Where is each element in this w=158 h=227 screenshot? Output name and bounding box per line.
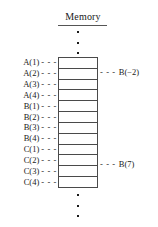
leader-dashes: - - - [41, 69, 58, 78]
memory-label-row: A(4) - - - [0, 90, 58, 101]
diagram-title-underline [58, 25, 107, 26]
memory-label-text: B(2) [24, 113, 42, 122]
memory-cell [59, 112, 97, 123]
memory-label-text: B(1) [24, 102, 42, 111]
leader-dashes: - - - [41, 134, 58, 143]
leader-dashes: - - - [41, 58, 58, 67]
memory-label-row: C(1) - - - [0, 144, 58, 155]
leader-dashes: - - - [100, 160, 116, 169]
memory-label-row: C(2) - - - [0, 155, 58, 166]
leader-dashes: - - - [41, 91, 58, 100]
leader-dashes: - - - [41, 113, 58, 122]
leader-dashes: - - - [41, 145, 58, 154]
memory-label-text: A(3) [23, 80, 41, 89]
memory-cell [59, 123, 97, 134]
leader-dashes: - - - [41, 156, 58, 165]
memory-cell [59, 155, 97, 166]
diagram-title: Memory [54, 11, 112, 23]
memory-cell [59, 69, 97, 80]
right-callout-text: B(7) [116, 160, 135, 169]
memory-cell [59, 145, 97, 156]
memory-label-row: B(2) - - - [0, 112, 58, 123]
memory-label-row: A(3) - - - [0, 79, 58, 90]
memory-label-text: C(3) [24, 167, 42, 176]
memory-label-row: C(4) - - - [0, 177, 58, 188]
memory-label-row: B(1) - - - [0, 101, 58, 112]
ellipsis-dot [77, 205, 79, 207]
memory-label-text: C(2) [24, 156, 42, 165]
memory-label-row: A(2) - - - [0, 68, 58, 79]
leader-dashes: - - - [41, 80, 58, 89]
ellipsis-dot [77, 215, 79, 217]
memory-label-row: B(4) - - - [0, 133, 58, 144]
leader-dashes: - - - [41, 167, 58, 176]
memory-label-text: A(2) [23, 69, 41, 78]
right-callout: - - - B(7) [100, 160, 134, 169]
memory-cell [59, 177, 97, 187]
memory-cell [59, 134, 97, 145]
memory-cell-stack [58, 57, 98, 188]
memory-cell [59, 101, 97, 112]
memory-cell [59, 166, 97, 177]
ellipsis-dot [77, 52, 79, 54]
memory-cell [59, 80, 97, 91]
ellipsis-dot [77, 31, 79, 33]
ellipsis-dot [77, 42, 79, 44]
memory-cell [59, 90, 97, 101]
memory-label-row: C(3) - - - [0, 166, 58, 177]
leader-dashes: - - - [41, 102, 58, 111]
leader-dashes: - - - [41, 123, 58, 132]
memory-label-text: B(3) [24, 123, 42, 132]
memory-label-text: A(1) [23, 58, 41, 67]
ellipsis-below-memory [73, 194, 83, 217]
right-callout-text: B(−2) [116, 68, 139, 77]
ellipsis-above-memory [73, 31, 83, 54]
memory-layout-diagram: Memory A(1) - - - A(2) - - - A(3) - - - … [0, 0, 158, 227]
leader-dashes: - - - [100, 68, 116, 77]
memory-label-text: C(4) [24, 178, 42, 187]
memory-cell [59, 58, 97, 69]
memory-label-text: A(4) [23, 91, 41, 100]
memory-label-text: C(1) [24, 145, 42, 154]
memory-label-row: A(1) - - - [0, 57, 58, 68]
right-callout: - - - B(−2) [100, 68, 139, 77]
leader-dashes: - - - [41, 178, 58, 187]
left-label-column: A(1) - - - A(2) - - - A(3) - - - A(4) - … [0, 57, 58, 188]
memory-label-row: B(3) - - - [0, 123, 58, 134]
ellipsis-dot [77, 194, 79, 196]
memory-label-text: B(4) [24, 134, 42, 143]
